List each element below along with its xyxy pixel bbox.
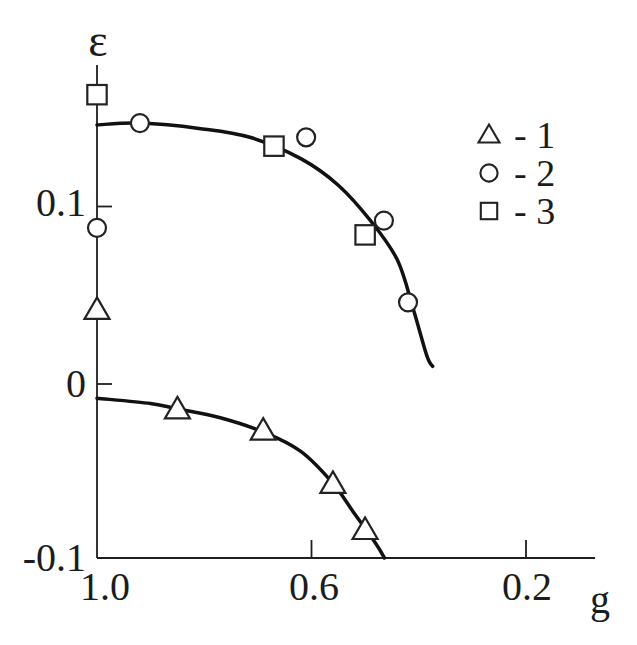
- square-marker-icon: [474, 196, 504, 226]
- x-tick-label-1p0: 1.0: [80, 567, 130, 607]
- legend-label-3: - 3: [514, 192, 555, 230]
- chart-canvas: [0, 0, 637, 645]
- fit-curve-lower: [97, 398, 384, 558]
- marker-circle-series-2: [297, 128, 315, 146]
- marker-circle-series-2: [88, 219, 106, 237]
- legend-label-2: - 2: [514, 154, 555, 192]
- x-tick-label-0p6: 0.6: [289, 567, 339, 607]
- marker-square-series-3: [355, 225, 374, 244]
- marker-circle-series-2: [399, 293, 417, 311]
- x-axis-title: g: [590, 580, 610, 620]
- y-axis-title: ε: [88, 18, 107, 64]
- marker-square-series-3: [87, 85, 106, 104]
- legend-item-2: - 2: [474, 154, 555, 192]
- triangle-marker-icon: [474, 120, 504, 150]
- legend-item-1: - 1: [474, 116, 555, 154]
- x-tick-label-0p2: 0.2: [502, 567, 552, 607]
- marker-circle-series-2: [375, 212, 393, 230]
- marker-square-series-3: [264, 136, 283, 155]
- legend: - 1 - 2 - 3: [474, 116, 555, 230]
- y-tick-label-neg0p1: -0.1: [0, 538, 86, 578]
- y-tick-label-0: 0: [0, 364, 86, 404]
- marker-triangle-series-1: [353, 518, 378, 540]
- y-tick-label-0p1: 0.1: [0, 183, 86, 223]
- circle-marker-icon: [474, 158, 504, 188]
- legend-label-1: - 1: [514, 116, 555, 154]
- legend-item-3: - 3: [474, 192, 555, 230]
- marker-circle-series-2: [131, 114, 149, 132]
- fit-curve-upper: [97, 123, 433, 366]
- figure-scatter-chart: ε g 0.1 0 -0.1 1.0 0.6 0.2 - 1 - 2 - 3: [0, 0, 637, 645]
- marker-triangle-series-1: [85, 297, 110, 319]
